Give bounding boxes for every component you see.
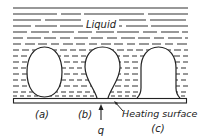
boiling-bubble-diagram: Liquid (a) (b) q Heating surface (c) [0, 0, 207, 140]
heating-surface-label: Heating surface [122, 108, 198, 119]
bubble-b [85, 47, 120, 98]
liquid-label: Liquid [86, 19, 117, 30]
heat-flux-label: q [98, 125, 104, 136]
bubble-c-label: (c) [151, 123, 164, 134]
bubble-b-label: (b) [78, 109, 92, 120]
heat-flux-arrow-icon [99, 104, 104, 120]
bubble-a-label: (a) [35, 109, 49, 120]
bubble-c [137, 47, 180, 98]
heating-surface-plate [14, 99, 187, 104]
bubble-a [27, 47, 62, 97]
